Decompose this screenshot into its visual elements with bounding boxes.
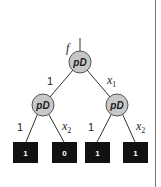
svg-text:1: 1	[95, 149, 100, 158]
edge-label-right-right: x2	[135, 119, 145, 135]
leaf-3: 1	[85, 142, 110, 163]
leaf-1: 1	[13, 142, 38, 163]
edge-root-left	[50, 70, 73, 97]
right-child-node: pD	[106, 94, 128, 116]
left-child-node: pD	[32, 94, 54, 116]
root-node-label: pD	[72, 57, 86, 68]
edge-label-left-right: x2	[61, 119, 71, 135]
decision-diagram: f 1 x1 1 x2 1 x2 pD pD pD 1 0 1 1	[0, 0, 161, 187]
input-label: f	[66, 41, 71, 55]
svg-text:1: 1	[133, 149, 138, 158]
edge-label-root-right: x1	[106, 73, 116, 89]
edge-label-right-left: 1	[88, 121, 94, 133]
edge-label-left-left: 1	[17, 121, 23, 133]
right-child-label: pD	[109, 100, 123, 111]
root-node: pD	[69, 51, 91, 73]
svg-text:0: 0	[62, 149, 67, 158]
leaf-4: 1	[123, 142, 148, 163]
edge-right-right	[122, 113, 135, 142]
edge-right-left	[97, 113, 112, 142]
edge-left-left	[26, 113, 38, 142]
edge-label-root-left: 1	[47, 75, 53, 87]
left-child-label: pD	[35, 100, 49, 111]
leaf-2: 0	[52, 142, 77, 163]
svg-text:1: 1	[23, 149, 28, 158]
